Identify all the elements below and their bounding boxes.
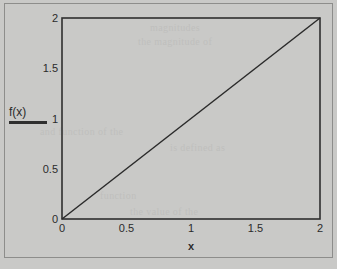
y-tick-label-4: 2 bbox=[18, 12, 58, 24]
y-axis-label: f(x) bbox=[9, 105, 51, 124]
x-tick-label-0: 0 bbox=[59, 222, 65, 234]
y-tick-label-1: 0.5 bbox=[18, 163, 58, 175]
y-axis-label-rule bbox=[9, 121, 47, 124]
x-tick-label-1: 0.5 bbox=[119, 222, 134, 234]
y-tick-label-3: 1.5 bbox=[18, 62, 58, 74]
x-axis-label: x bbox=[188, 240, 194, 252]
data-line-fx bbox=[62, 18, 320, 219]
figure-canvas: magnitudes the magnitude of and function… bbox=[0, 0, 337, 269]
x-tick-label-4: 2 bbox=[317, 222, 323, 234]
y-axis-label-text: f(x) bbox=[9, 105, 51, 119]
plot-area bbox=[0, 0, 337, 269]
x-tick-label-2: 1 bbox=[188, 222, 194, 234]
x-tick-label-3: 1.5 bbox=[248, 222, 263, 234]
y-tick-label-0: 0 bbox=[18, 213, 58, 225]
